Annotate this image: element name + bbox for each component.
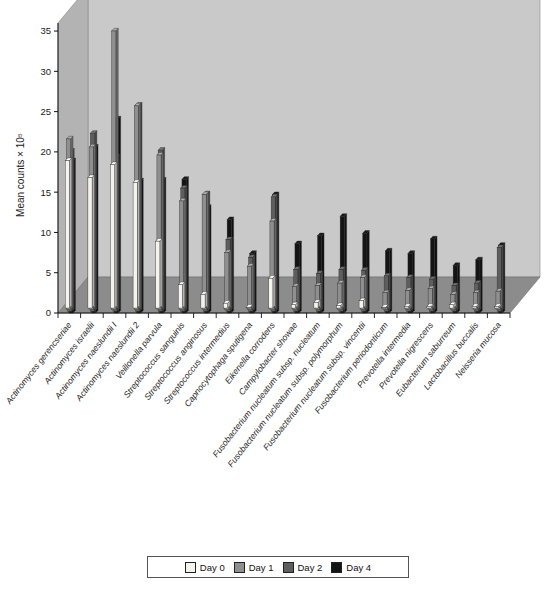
legend-item-day-0[interactable]: Day 0 [185,562,225,573]
bar-day-0 [156,239,162,309]
y-tick-label: 20 [40,146,51,157]
bar-day-1 [247,264,253,310]
figure-3d-bar-chart: 05101520253035 Actinomyces gerencseriaeA… [0,0,558,590]
chart-canvas: 05101520253035 Actinomyces gerencseriaeA… [0,0,558,590]
legend-label-day-2: Day 2 [298,562,323,573]
y-axis: 05101520253035 [40,23,58,318]
bar-day-0 [178,282,184,308]
y-tick-label: 15 [40,187,51,198]
y-tick-label: 10 [40,227,51,238]
legend: Day 0 Day 1 Day 2 Day 4 [147,556,409,578]
legend-swatch-day-2 [283,562,294,573]
legend-swatch-day-1 [234,562,245,573]
bar-day-0 [269,276,275,308]
x-axis [58,313,510,318]
legend-label-day-1: Day 1 [249,562,274,573]
legend-label-day-0: Day 0 [200,562,225,573]
bar-day-0 [65,158,71,308]
bar-day-0 [201,292,207,308]
legend-label-day-4: Day 4 [346,562,371,573]
back-wall [88,0,540,277]
y-tick-label: 25 [40,106,51,117]
legend-item-day-4[interactable]: Day 4 [331,562,371,573]
legend-item-day-2[interactable]: Day 2 [283,562,323,573]
legend-item-day-1[interactable]: Day 1 [234,562,274,573]
y-axis-title: Mean counts × 10⁵ [15,133,26,217]
category-labels: Actinomyces gerencseriaeActinomyces isra… [3,319,503,469]
legend-swatch-day-0 [185,562,196,573]
bar-day-0 [111,162,117,308]
y-tick-label: 0 [46,307,51,318]
bar-day-0 [359,298,365,308]
y-tick-label: 5 [46,267,51,278]
bar-day-0 [133,180,139,308]
y-tick-label: 30 [40,66,51,77]
y-tick-label: 35 [40,25,51,36]
legend-swatch-day-4 [331,562,342,573]
bar-day-0 [88,175,94,308]
bar-day-0 [314,300,320,308]
